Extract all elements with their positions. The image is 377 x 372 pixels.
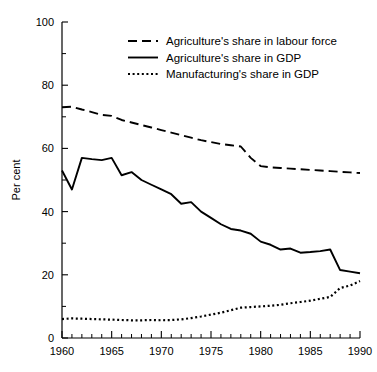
y-tick-label: 80	[42, 79, 54, 91]
y-tick-label: 20	[42, 269, 54, 281]
x-tick-label: 1985	[298, 345, 322, 357]
x-tick-label: 1965	[99, 345, 123, 357]
legend-label-0: Agriculture's share in labour force	[166, 35, 337, 47]
series-line-2	[62, 281, 360, 320]
x-tick-label: 1970	[149, 345, 173, 357]
x-tick-label: 1980	[248, 345, 272, 357]
legend-label-1: Agriculture's share in GDP	[166, 52, 301, 64]
y-axis-title: Per cent	[10, 160, 22, 201]
x-tick-label: 1990	[348, 345, 372, 357]
line-chart: 020406080100Per cent19601965197019751980…	[0, 0, 377, 372]
series-line-1	[62, 158, 360, 273]
y-tick-label: 100	[36, 16, 54, 28]
series-line-0	[62, 107, 360, 173]
chart-container: 020406080100Per cent19601965197019751980…	[0, 0, 377, 372]
y-tick-label: 40	[42, 206, 54, 218]
legend-label-2: Manufacturing's share in GDP	[166, 68, 319, 80]
x-tick-label: 1975	[199, 345, 223, 357]
y-tick-label: 0	[48, 332, 54, 344]
x-tick-label: 1960	[50, 345, 74, 357]
y-tick-label: 60	[42, 142, 54, 154]
